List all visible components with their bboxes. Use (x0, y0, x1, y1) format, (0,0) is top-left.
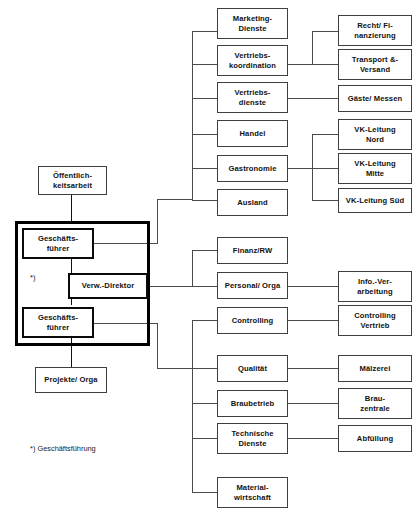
node-geschaeftsfuehrer-top[interactable]: Geschäfts- führer (22, 228, 94, 259)
stub-vk-leitung-mitte (312, 168, 338, 169)
connector-production-feed (157, 368, 193, 369)
node-geschaeftsfuehrer-bottom[interactable]: Geschäfts- führer (22, 307, 94, 338)
node-braubetrieb[interactable]: Braubetrieb (217, 390, 288, 417)
node-vk-leitung-mitte[interactable]: VK-Leitung Mitte (338, 153, 412, 184)
node-label: Geschäfts- führer (36, 313, 80, 332)
stub-technische-dienste (192, 438, 217, 439)
node-info-verarbeitung[interactable]: Info.-Ver- arbeitung (338, 271, 412, 302)
node-label: Personal/ Orga (223, 281, 282, 290)
stub-braubetrieb (192, 403, 217, 404)
stub-handel (192, 134, 217, 135)
stub-gastronomie (192, 168, 217, 169)
stub-controlling (192, 320, 217, 321)
node-label: Controlling (230, 316, 276, 325)
stub-maelzerei (288, 368, 338, 369)
node-gastronomie[interactable]: Gastronomie (217, 155, 288, 182)
stub-materialwirtschaft (192, 492, 217, 493)
stub-transport-versand (312, 64, 338, 65)
node-label: Verw.-Direktor (80, 281, 137, 290)
stub-gaeste-messen (288, 98, 338, 99)
node-label: Recht/ Fi- nanzierung (352, 21, 398, 40)
node-vk-leitung-sued[interactable]: VK-Leitung Süd (338, 188, 412, 213)
node-qualitaet[interactable]: Qualität (217, 355, 288, 382)
node-vk-leitung-nord[interactable]: VK-Leitung Nord (338, 119, 412, 150)
node-label: Geschäfts- führer (36, 234, 80, 253)
org-chart: Öffentlich- keitsarbeit Geschäfts- führe… (0, 0, 420, 513)
node-abfuellung[interactable]: Abfüllung (338, 425, 412, 452)
node-label: Info.-Ver- arbeitung (355, 277, 395, 296)
node-label: Mälzerei (358, 364, 393, 373)
stub-finanz-rw (192, 250, 217, 251)
node-label: VK-Leitung Nord (352, 125, 398, 144)
node-label: VK-Leitung Süd (344, 196, 406, 205)
node-label: Gäste/ Messen (346, 94, 404, 103)
stub-brau-zentrale (288, 403, 338, 404)
node-transport-versand[interactable]: Transport &- Versand (338, 49, 412, 80)
stub-controlling-vertrieb (288, 320, 338, 321)
stub-recht-finanzierung (312, 31, 338, 32)
stub-info-verarbeitung (288, 286, 338, 287)
connector-gf-bottom-riser (157, 323, 158, 369)
node-label: Abfüllung (355, 434, 395, 443)
trunk-admin (192, 250, 193, 287)
trunk-sales (192, 31, 193, 200)
node-handel[interactable]: Handel (217, 120, 288, 147)
stub-vk-leitung-nord (312, 134, 338, 135)
node-controlling-vertrieb[interactable]: Controlling Vertrieb (338, 305, 412, 336)
stub-vk-leitung-sued (312, 200, 338, 201)
node-label: VK-Leitung Mitte (352, 159, 398, 178)
connector-vk-out (288, 64, 313, 65)
node-technische-dienste[interactable]: Technische Dienste (217, 423, 288, 454)
connector-gastro-out (288, 168, 313, 169)
node-finanz-rw[interactable]: Finanz/RW (217, 237, 288, 264)
stub-abfuellung (288, 438, 338, 439)
node-label: Brau- zentrale (358, 394, 392, 413)
node-label: Vertriebs- dienste (232, 88, 272, 107)
node-label: Projekte/ Orga (42, 375, 99, 384)
node-label: Qualität (236, 364, 269, 373)
node-gaeste-messen[interactable]: Gäste/ Messen (338, 85, 412, 112)
stub-marketing-dienste (192, 31, 217, 32)
node-projekte-orga[interactable]: Projekte/ Orga (35, 367, 107, 393)
stub-vertriebskoordination (192, 64, 217, 65)
node-vertriebskoordination[interactable]: Vertriebs- koordination (217, 45, 288, 76)
node-label: Braubetrieb (229, 399, 277, 408)
node-label: Öffentlich- keitsarbeit (51, 171, 94, 190)
connector-oeffentlichkeit-down (71, 194, 72, 222)
node-label: Gastronomie (227, 164, 279, 173)
node-ausland[interactable]: Ausland (217, 189, 288, 216)
node-vertriebsdienste[interactable]: Vertriebs- dienste (217, 82, 288, 113)
node-oeffentlichkeitsarbeit[interactable]: Öffentlich- keitsarbeit (38, 166, 107, 195)
node-recht-finanzierung[interactable]: Recht/ Fi- nanzierung (338, 15, 412, 46)
footnote-text: *) Geschäftsführung (30, 444, 96, 453)
node-maelzerei[interactable]: Mälzerei (338, 355, 412, 382)
node-personal-orga[interactable]: Personal/ Orga (217, 272, 288, 299)
footnote-marker: *) (30, 273, 35, 282)
node-controlling[interactable]: Controlling (217, 307, 288, 334)
node-label: Technische Dienste (229, 429, 275, 448)
node-label: Handel (238, 129, 268, 138)
node-label: Finanz/RW (231, 246, 275, 255)
connector-vk-riser (312, 31, 313, 65)
node-materialwirtschaft[interactable]: Material- wirtschaft (217, 477, 288, 508)
node-label: Marketing- Dienste (231, 14, 274, 33)
connector-gf-top-riser (157, 199, 158, 244)
connector-sales-feed (157, 199, 193, 200)
stub-qualitaet (192, 368, 217, 369)
node-label: Controlling Vertrieb (352, 311, 398, 330)
node-label: Vertriebs- koordination (227, 51, 278, 70)
node-brau-zentrale[interactable]: Brau- zentrale (338, 388, 412, 419)
stub-vertriebsdienste (192, 98, 217, 99)
stub-ausland (192, 200, 217, 201)
node-label: Material- wirtschaft (232, 483, 273, 502)
node-verwaltungsdirektor[interactable]: Verw.-Direktor (68, 273, 148, 299)
node-label: Transport &- Versand (350, 55, 400, 74)
node-label: Ausland (235, 198, 270, 207)
trunk-production (192, 320, 193, 493)
node-marketing-dienste[interactable]: Marketing- Dienste (217, 8, 288, 39)
stub-personal-orga (192, 286, 217, 287)
